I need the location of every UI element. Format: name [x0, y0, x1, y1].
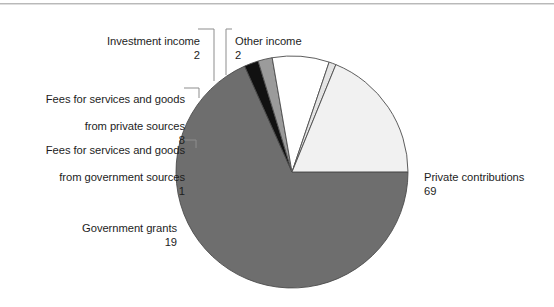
slice-label-investment-income: Investment income 2	[10, 22, 200, 76]
slice-label-value: 1	[0, 185, 185, 198]
slice-label-text-line1: Fees for services and goods	[46, 144, 185, 156]
slice-label-text-line2: from government sources	[59, 171, 185, 183]
slice-label-text: Private contributions	[424, 171, 524, 183]
slice-label-text: Investment income	[107, 35, 200, 47]
pie-slices	[176, 56, 408, 288]
slice-label-fees-government-sources: Fees for services and goods from governm…	[0, 131, 185, 211]
slice-label-text-line1: Fees for services and goods	[46, 93, 185, 105]
leader-line-investment-income	[198, 29, 214, 81]
slice-label-value: 69	[424, 185, 552, 198]
slice-label-government-grants: Government grants 19	[20, 209, 177, 263]
leader-line-fees-private	[184, 88, 199, 98]
slice-label-value: 2	[235, 49, 395, 62]
slice-label-other-income: Other income 2	[235, 22, 395, 76]
slice-label-private-contributions: Private contributions 69	[424, 158, 552, 212]
pie-chart-figure: Investment income 2 Other income 2 Fees …	[0, 0, 554, 307]
slice-label-value: 19	[20, 236, 177, 249]
slice-label-value: 2	[10, 49, 200, 62]
slice-label-text: Other income	[235, 35, 302, 47]
leader-line-other-income	[226, 29, 232, 75]
slice-label-text: Government grants	[82, 222, 177, 234]
